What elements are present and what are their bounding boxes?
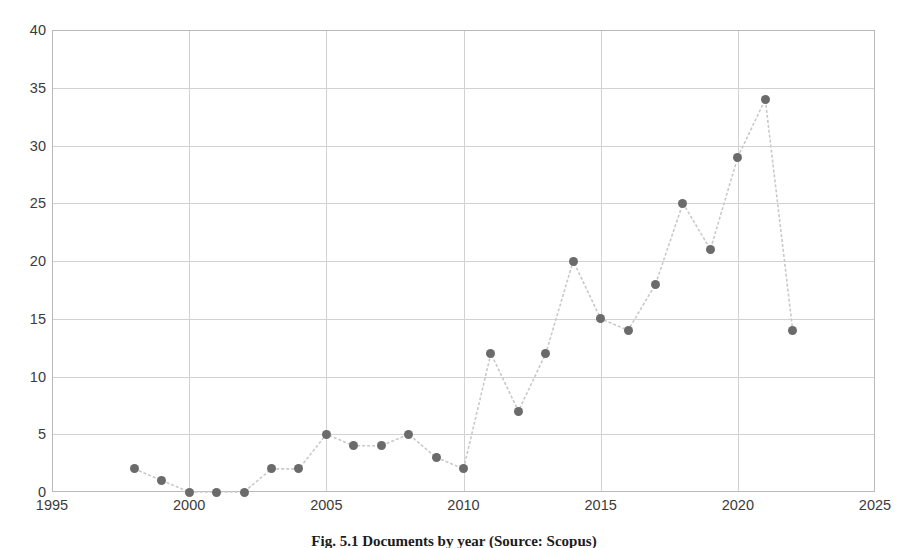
x-axis-tick-label: 2025 xyxy=(859,497,891,513)
plot-area xyxy=(52,30,875,492)
y-axis-tick-label: 25 xyxy=(0,195,46,211)
y-axis-tick-label: 35 xyxy=(0,80,46,96)
x-axis-tick-label: 2005 xyxy=(310,497,342,513)
figure-documents-by-year: 0510152025303540 19952000200520102015202… xyxy=(0,0,908,548)
y-axis-tick-labels: 0510152025303540 xyxy=(0,0,46,548)
gridline-vertical xyxy=(738,31,739,491)
x-axis-tick-label: 2015 xyxy=(585,497,617,513)
x-axis-tick-label: 2000 xyxy=(173,497,205,513)
figure-caption: Fig. 5.1 Documents by year (Source: Scop… xyxy=(0,532,908,548)
y-axis-tick-label: 40 xyxy=(0,22,46,38)
y-axis-tick-label: 5 xyxy=(0,426,46,442)
y-axis-tick-label: 30 xyxy=(0,138,46,154)
gridline-vertical xyxy=(326,31,327,491)
y-axis-tick-label: 20 xyxy=(0,253,46,269)
x-axis-tick-label: 2010 xyxy=(447,497,479,513)
gridline-vertical xyxy=(464,31,465,491)
y-axis-tick-label: 10 xyxy=(0,369,46,385)
y-axis-tick-label: 15 xyxy=(0,311,46,327)
x-axis-tick-label: 1995 xyxy=(36,497,68,513)
gridline-vertical xyxy=(189,31,190,491)
x-axis-tick-label: 2020 xyxy=(722,497,754,513)
gridline-vertical xyxy=(601,31,602,491)
